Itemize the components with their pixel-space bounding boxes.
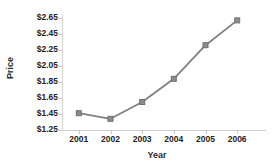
data-point-marker <box>140 100 145 105</box>
price-by-year-line-chart: $2.65$2.45$2.25$2.05$1.85$1.65$1.45$1.25… <box>0 0 273 166</box>
data-point-marker <box>171 76 176 81</box>
y-tick-mark <box>57 98 62 99</box>
y-tick-mark <box>57 82 62 83</box>
data-point-marker <box>203 43 208 48</box>
price-line <box>79 20 237 118</box>
x-axis-title: Year <box>62 150 252 160</box>
y-tick-mark <box>57 50 62 51</box>
data-point-marker <box>235 18 240 23</box>
y-tick-mark <box>57 18 62 19</box>
y-tick-mark <box>57 34 62 35</box>
data-point-marker <box>76 111 81 116</box>
data-point-marker <box>108 116 113 121</box>
price-series-plot <box>0 0 273 166</box>
y-tick-mark <box>57 130 62 131</box>
y-tick-mark <box>57 114 62 115</box>
y-tick-mark <box>57 66 62 67</box>
y-axis-title: Price <box>5 45 15 91</box>
